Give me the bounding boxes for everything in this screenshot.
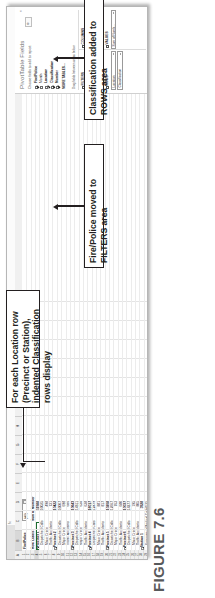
callout-filters-note: Fire/Police moved to FILTERS area xyxy=(84,144,104,268)
checkbox-icon[interactable] xyxy=(56,86,59,89)
drag-fields-hint: Drag fields between areas below: xyxy=(72,45,76,89)
grid-vline xyxy=(22,434,147,435)
more-tables-link[interactable]: MORE TABLES... xyxy=(62,63,66,89)
field-list-item-label: Fire/Police xyxy=(34,66,38,83)
field-list-item-label: Location xyxy=(44,69,48,83)
row-header-29[interactable]: 29 xyxy=(144,550,148,559)
rotated-figure-wrapper: FIGURE 7.6 fx ABCDEFGHIJKLMN 12345678910… xyxy=(0,0,215,598)
sigma-icon xyxy=(106,46,109,49)
field-chip-location[interactable]: Location xyxy=(111,51,116,90)
grid-vline xyxy=(22,415,147,416)
area-label-values: VALUES xyxy=(105,31,109,44)
field-list-item-label: Classification xyxy=(50,61,54,83)
chevron-down-icon[interactable] xyxy=(113,12,114,14)
figure-canvas: FIGURE 7.6 fx ABCDEFGHIJKLMN 12345678910… xyxy=(0,0,215,598)
grid-vline xyxy=(22,529,147,530)
pivot-value-cell[interactable]: 2535 xyxy=(145,501,147,521)
pane-tools-button[interactable]: ⚙ xyxy=(25,17,32,27)
row-header-column: 1234567891011121314151617181920212223242… xyxy=(22,549,147,559)
chevron-down-icon[interactable] xyxy=(113,53,114,55)
column-header-e[interactable]: E xyxy=(15,473,22,492)
callout-leader-filters xyxy=(58,205,84,207)
checkbox-icon[interactable] xyxy=(45,86,48,89)
grid-vline xyxy=(22,491,147,492)
column-header-c[interactable]: C xyxy=(15,511,22,530)
pivottable-fields-pane: PivotTable Fields × ⚙ Choose fields to a… xyxy=(15,7,147,94)
callout-leader-rows xyxy=(58,57,84,59)
callout-arrow-location xyxy=(20,463,26,468)
field-chip-sum-of-numb-[interactable]: Sum of Numb... xyxy=(111,10,116,49)
grid-vline xyxy=(22,510,147,511)
pane-title: PivotTable Fields xyxy=(18,41,25,89)
chevron-down-icon[interactable] xyxy=(120,53,121,55)
checkbox-icon[interactable] xyxy=(51,86,54,89)
callout-location-note: For each Location row (Precinct or Stati… xyxy=(6,290,40,408)
column-header-d[interactable]: D xyxy=(15,492,22,511)
grid-vline xyxy=(22,301,147,302)
callout-leader-location-3 xyxy=(23,461,45,462)
callout-arrow-rows xyxy=(53,56,58,62)
callout-leader-location-2 xyxy=(23,408,24,462)
field-list-item-label: Number xyxy=(55,70,59,83)
grid-vline xyxy=(22,472,147,473)
field-chip-classification[interactable]: Classification xyxy=(117,51,122,90)
column-header-b[interactable]: B xyxy=(15,530,22,550)
checkbox-icon[interactable] xyxy=(40,86,43,89)
grid-vline xyxy=(22,453,147,454)
name-box[interactable] xyxy=(7,524,15,559)
excel-window: fx ABCDEFGHIJKLMN 1234567891011121314151… xyxy=(6,6,148,560)
callout-arrow-filters xyxy=(53,204,58,210)
column-header-g[interactable]: G xyxy=(15,435,22,454)
pane-subtitle: Choose fields to add to report: xyxy=(28,45,32,89)
field-checkbox-list[interactable]: Fire/PoliceMonthLocationClassificationNu… xyxy=(34,11,60,89)
column-header-a[interactable]: A xyxy=(15,550,22,559)
field-list-item-label: Month xyxy=(39,74,43,83)
checkbox-icon[interactable] xyxy=(35,86,38,89)
field-list-item-number[interactable]: Number xyxy=(55,11,60,89)
column-header-h[interactable]: H xyxy=(15,416,22,435)
figure-caption: FIGURE 7.6 xyxy=(150,507,167,592)
formula-fx-icon: fx xyxy=(8,522,12,524)
callout-rows-note: Classification added to ROWS area xyxy=(84,0,104,120)
close-icon[interactable]: × xyxy=(18,10,23,12)
gear-icon: ⚙ xyxy=(26,22,30,25)
